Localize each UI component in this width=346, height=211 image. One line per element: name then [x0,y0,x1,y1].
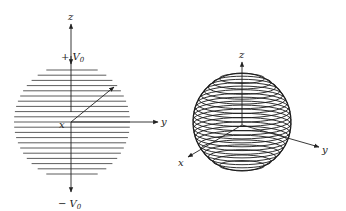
y-axis-label: y [160,116,167,127]
positive-potential-label: + V0 [61,51,85,64]
negative-potential-label: − V0 [58,198,82,211]
sphere-z-label: z [238,49,245,60]
right-figure: z y x [178,49,328,171]
sphere-x-label: x [178,157,184,168]
diagram-canvas: z + V0 − V0 x y z y x [0,0,346,211]
z-axis-label: z [67,11,74,22]
x-axis-label: x [59,119,65,130]
left-figure: z + V0 − V0 x y [14,11,167,211]
sphere-y-label: y [321,144,328,155]
sphere-ring [208,150,276,165]
